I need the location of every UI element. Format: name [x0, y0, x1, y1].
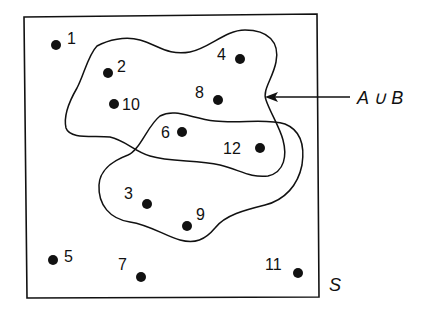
universe-label: S: [329, 275, 341, 295]
point-3: 3: [124, 185, 152, 209]
point-12: 12: [223, 140, 265, 157]
point-4: 4: [217, 46, 245, 64]
point-label: 2: [117, 58, 126, 75]
point-2: 2: [103, 58, 126, 78]
point-8: 8: [195, 84, 223, 105]
point-label: 12: [223, 140, 241, 157]
point-dot: [182, 221, 192, 231]
points-group: 124810612395711: [48, 30, 303, 282]
point-label: 10: [122, 96, 140, 113]
point-label: 9: [196, 206, 205, 223]
point-dot: [103, 68, 113, 78]
point-11: 11: [265, 256, 303, 278]
set-a-curve: [65, 30, 284, 176]
point-6: 6: [161, 124, 187, 141]
point-dot: [235, 54, 245, 64]
point-5: 5: [48, 248, 73, 265]
union-label: A ∪ B: [356, 88, 403, 108]
point-label: 1: [67, 30, 76, 47]
venn-diagram: A ∪ B S 124810612395711: [0, 0, 432, 313]
point-7: 7: [118, 256, 146, 282]
point-label: 5: [64, 248, 73, 265]
point-label: 7: [118, 256, 127, 273]
point-dot: [142, 199, 152, 209]
point-dot: [48, 255, 58, 265]
point-10: 10: [109, 96, 140, 113]
point-dot: [293, 268, 303, 278]
point-label: 3: [124, 185, 133, 202]
point-label: 6: [161, 124, 170, 141]
point-label: 8: [195, 84, 204, 101]
point-dot: [109, 99, 119, 109]
point-label: 11: [265, 256, 282, 273]
point-dot: [213, 95, 223, 105]
point-label: 4: [217, 46, 226, 63]
point-dot: [177, 127, 187, 137]
point-9: 9: [182, 206, 205, 231]
point-dot: [255, 143, 265, 153]
point-dot: [136, 272, 146, 282]
point-1: 1: [51, 30, 76, 50]
point-dot: [51, 40, 61, 50]
